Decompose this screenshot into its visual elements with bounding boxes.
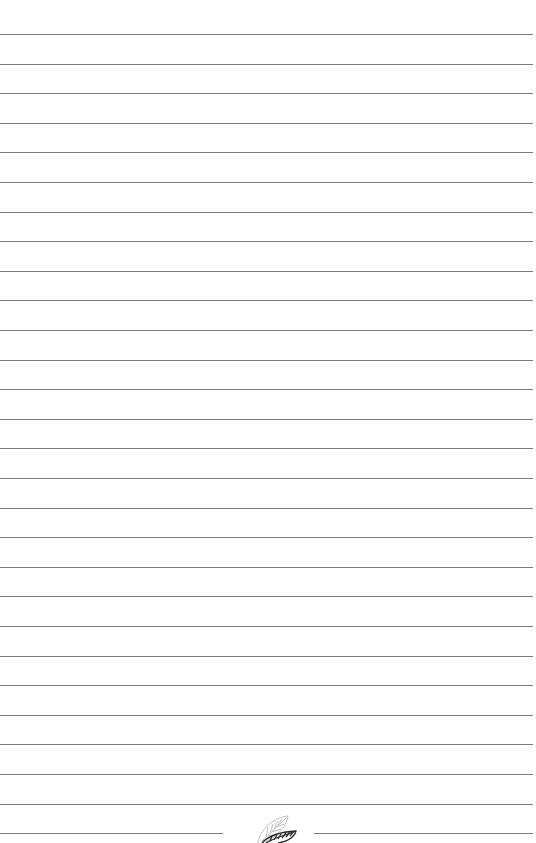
- ruled-line: [0, 626, 533, 627]
- ruled-line: [0, 715, 533, 716]
- ruled-line: [0, 93, 533, 94]
- ruled-line: [0, 64, 533, 65]
- ruled-line: [0, 212, 533, 213]
- ruled-line: [0, 508, 533, 509]
- ruled-line: [314, 833, 533, 834]
- ruled-line: [0, 419, 533, 420]
- ruled-line: [0, 478, 533, 479]
- notebook-page: [0, 0, 536, 843]
- ruled-line: [0, 774, 533, 775]
- ruled-line: [0, 596, 533, 597]
- ruled-line: [0, 685, 533, 686]
- ruled-line: [0, 34, 533, 35]
- ruled-line: [0, 300, 533, 301]
- ruled-line: [0, 182, 533, 183]
- ruled-line: [0, 448, 533, 449]
- ruled-line: [0, 537, 533, 538]
- ruled-line: [0, 804, 533, 805]
- ruled-line: [0, 271, 533, 272]
- ruled-line: [0, 744, 533, 745]
- ruled-line: [0, 389, 533, 390]
- ruled-line: [0, 152, 533, 153]
- leaf-icon: [248, 812, 306, 843]
- ruled-line: [0, 330, 533, 331]
- ruled-line: [0, 656, 533, 657]
- ruled-line: [0, 567, 533, 568]
- ruled-line: [0, 833, 223, 834]
- ruled-line: [0, 360, 533, 361]
- ruled-line: [0, 241, 533, 242]
- ruled-line: [0, 123, 533, 124]
